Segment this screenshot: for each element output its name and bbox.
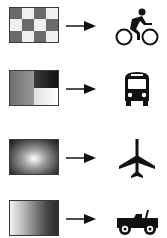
jeep-icon	[112, 200, 162, 238]
mapping-row-bicycle	[0, 7, 167, 47]
checkerboard-pattern	[9, 7, 59, 43]
right-arrow-icon	[66, 152, 96, 164]
mapping-row-jeep	[0, 200, 167, 238]
right-arrow-icon	[66, 83, 96, 95]
gradient-pattern	[9, 70, 59, 106]
mapping-row-airplane	[0, 139, 167, 179]
right-arrow-icon	[66, 20, 96, 32]
airplane-icon	[112, 139, 162, 179]
bicycle-icon	[112, 7, 162, 47]
radial-gradient-pattern	[9, 139, 59, 175]
bus-icon	[112, 70, 162, 110]
right-arrow-icon	[66, 213, 96, 225]
linear-gradient-pattern	[9, 200, 59, 236]
mapping-row-bus	[0, 70, 167, 110]
